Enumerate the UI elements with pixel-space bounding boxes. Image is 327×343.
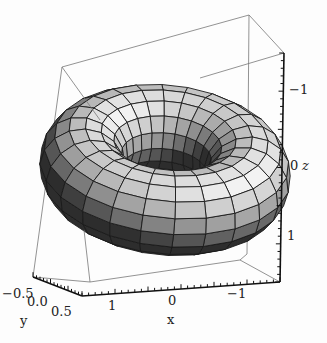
torus-mesh-patch bbox=[175, 202, 206, 219]
y-tick-label: 0.0 bbox=[27, 294, 48, 309]
torus-mesh-patch bbox=[235, 137, 252, 148]
z-tick-label: −1 bbox=[289, 82, 308, 97]
x-tick-label: 1 bbox=[108, 298, 116, 313]
x-tick-label: 0 bbox=[168, 293, 176, 308]
x-tick-label: −1 bbox=[227, 286, 246, 301]
box-edge bbox=[249, 15, 284, 53]
y-axis-label: y bbox=[19, 313, 28, 328]
box-edge bbox=[200, 53, 284, 78]
torus-plot-figure: −0.50.00.5 10−1 −101 y x z bbox=[0, 0, 327, 343]
torus-3d-plot: −0.50.00.5 10−1 −101 y x z bbox=[0, 0, 327, 343]
x-axis-label: x bbox=[167, 312, 175, 327]
z-tick-label: 1 bbox=[287, 228, 295, 243]
y-tick-label: 0.5 bbox=[51, 304, 72, 319]
torus-mesh-patch bbox=[170, 247, 203, 255]
y-tick-labels: −0.50.00.5 bbox=[2, 286, 72, 319]
z-tick-label: 0 bbox=[290, 158, 298, 173]
torus-mesh-patch bbox=[141, 133, 152, 151]
box-edge bbox=[90, 260, 240, 282]
torus-mesh-patch bbox=[172, 234, 206, 247]
box-edge bbox=[240, 260, 280, 282]
torus-mesh-patch bbox=[174, 218, 207, 235]
box-edge bbox=[84, 230, 90, 282]
torus-mesh-patch bbox=[175, 176, 201, 188]
torus-surface bbox=[40, 85, 290, 256]
torus-mesh-patch bbox=[151, 133, 163, 149]
z-axis-label: z bbox=[301, 158, 309, 173]
box-edge bbox=[62, 15, 249, 67]
torus-mesh-patch bbox=[160, 149, 173, 163]
torus-mesh-patch bbox=[150, 116, 164, 133]
torus-mesh-patch bbox=[143, 199, 176, 219]
box-edge bbox=[230, 60, 232, 90]
torus-mesh-patch bbox=[176, 187, 205, 203]
box-edge bbox=[240, 254, 247, 260]
